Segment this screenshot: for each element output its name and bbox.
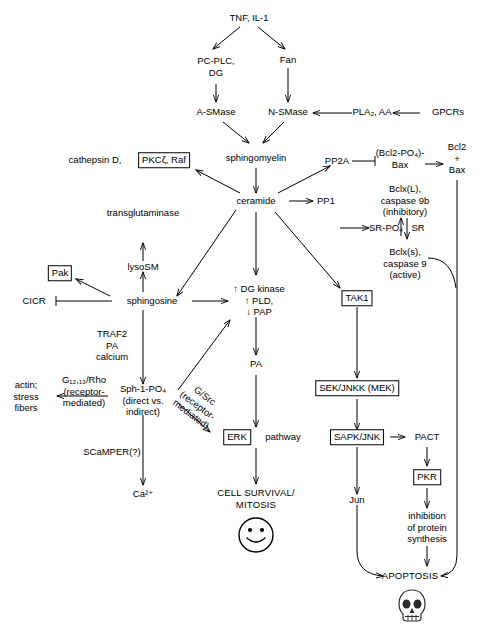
node-pact: PACT [415,431,440,443]
node-sek-jnkk-mek: SEK/JNKK (MEK) [315,380,399,396]
node-n-smase: N-SMase [268,106,308,118]
node-sapk-jnk: SAPK/JNK [330,429,384,445]
node-gpcrs: GPCRs [432,106,464,118]
node-pla2-aa: PLA₂, AA [352,106,391,118]
node-jun: Jun [349,494,364,506]
node-bcl2-plus-bax: Bcl2+Bax [448,141,466,176]
node-cathepsin-d: cathepsin D, [69,154,122,166]
node-a-smase: A-SMase [196,106,235,118]
node-cell-survival-mitosis: CELL SURVIVAL/MITOSIS [217,487,295,510]
node-sphingosine: sphingosine [127,295,178,307]
node-lysosm: lysoSM [127,261,158,273]
node-g-src: G/Src(receptor-mediated) [171,379,226,432]
node-pp2a: PP2A [325,155,349,167]
node-pc-plc-dg: PC-PLC,DG [197,55,234,78]
node-g1213-rho: G₁₂,₁₃/Rho(receptor-mediated) [62,374,106,409]
node-apoptosis: APOPTOSIS [382,570,439,582]
node-pathway: pathway [265,431,300,443]
node-ca2: Ca²⁺ [133,488,153,500]
node-actin-stress-fibers: actin;stressfibers [13,379,38,414]
node-sph-1-po4: Sph-1-PO₄(direct vs.indirect) [120,383,166,418]
node-pp1: PP1 [317,195,335,207]
node-bcl2-po4-bax: (Bcl2-PO₄)-Bax [376,147,425,170]
node-scamper: SCaMPER(?) [83,446,141,458]
smiley-face-icon [236,515,276,559]
node-sphingomyelin: sphingomyelin [226,152,287,164]
node-bclxs-caspase9: Bclx(s),caspase 9(active) [383,246,426,281]
node-traf2-pa-calcium: TRAF2PAcalcium [96,328,128,363]
node-transglutaminase: transglutaminase [107,207,179,219]
node-tnf-il1: TNF, IL-1 [229,12,268,24]
skull-icon [396,588,428,628]
node-dg-kinase-pld-pap: ↑ DG kinase↑ PLD,↓ PAP [233,283,285,318]
node-fan: Fan [280,54,296,66]
node-pa: PA [250,358,262,370]
node-pkcz-raf: PKCζ, Raf [138,152,190,168]
node-erk: ERK [223,429,251,445]
node-cicr: CICR [22,295,45,307]
node-pkr: PKR [413,469,441,485]
node-bclxl-caspase9b: Bclx(L),caspase 9b(inhibitory) [381,183,430,218]
node-sr-po4: SR-PO₄ [369,222,403,234]
pathway-diagram: TNF, IL-1 PC-PLC,DG Fan A-SMase N-SMase … [0,0,498,634]
node-tak1: TAK1 [341,290,372,306]
node-pak: Pak [48,265,72,281]
node-ceramide: ceramide [236,195,275,207]
node-inhibition-protein-synthesis: inhibitionof proteinsynthesis [407,510,447,545]
node-sr: SR [411,222,424,234]
